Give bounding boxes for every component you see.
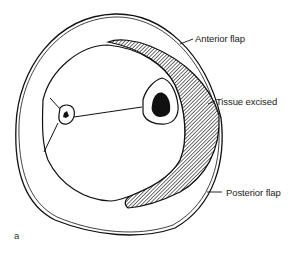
anterior-flap-label: Anterior flap [195,33,245,44]
amputation-cross-section-diagram [0,0,297,254]
fibula [59,105,75,124]
anterior-flap-leader [180,39,193,44]
posterior-flap-label: Posterior flap [226,187,281,198]
tissue-excised-label: Tissue excised [216,96,277,107]
panel-label: a [14,230,19,241]
